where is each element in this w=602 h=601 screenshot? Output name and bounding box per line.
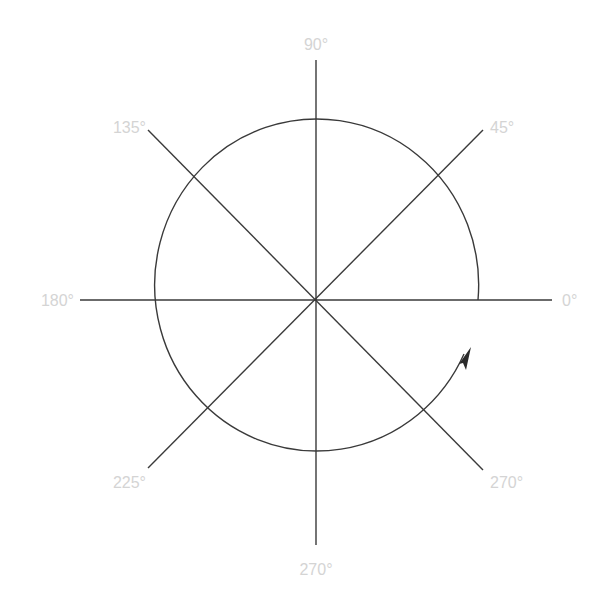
label-45: 45°: [490, 119, 514, 136]
label-135: 135°: [113, 119, 146, 136]
angle-diagram: 90° 45° 135° 180° 0° 225° 270° 270°: [0, 0, 602, 601]
label-0: 0°: [562, 292, 577, 309]
label-315: 270°: [490, 474, 523, 491]
label-180: 180°: [41, 292, 74, 309]
label-270: 270°: [299, 561, 332, 578]
arrowhead-icon: [459, 347, 471, 370]
label-90: 90°: [304, 36, 328, 53]
label-225: 225°: [113, 474, 146, 491]
